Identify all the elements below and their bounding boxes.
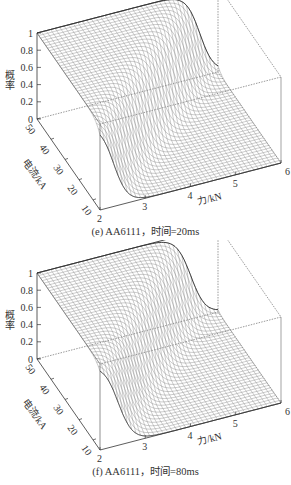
x-tick-label: 3 (142, 201, 147, 212)
z-tick-label: 0.2 (21, 336, 34, 347)
x-tick-label: 3 (142, 441, 147, 452)
panel-e: 00.20.40.60.81概率1020304050电流/kA23456力/kN… (0, 0, 291, 240)
x-tick-label: 2 (97, 453, 102, 462)
z-axis-label: 概率 (4, 69, 15, 91)
z-tick-label: 0.6 (21, 302, 34, 313)
x-tick-label: 6 (285, 406, 290, 417)
x-tick-label: 2 (97, 213, 102, 222)
z-tick-label: 1 (28, 28, 33, 39)
surface-plot-e: 00.20.40.60.81概率1020304050电流/kA23456力/kN (0, 0, 291, 222)
x-tick-label: 5 (233, 178, 238, 189)
surface-mesh (37, 0, 281, 198)
y-tick-label: 50 (23, 362, 38, 377)
z-tick-label: 0.6 (21, 62, 34, 73)
z-tick-label: 0.4 (21, 79, 34, 90)
y-tick-label: 20 (65, 183, 80, 198)
y-tick-label: 10 (79, 203, 94, 218)
z-tick-label: 1 (28, 268, 33, 279)
x-axis-label: 力/kN (196, 189, 223, 207)
panel-f: 00.20.40.60.81概率1020304050电流/kA23456力/kN… (0, 240, 291, 485)
z-tick-label: 0.8 (21, 45, 34, 56)
z-axis-label: 概率 (4, 309, 15, 331)
y-tick-label: 50 (23, 122, 38, 137)
y-tick-label: 40 (37, 142, 52, 157)
z-tick-label: 0.2 (21, 96, 34, 107)
y-tick-label: 30 (51, 162, 66, 177)
x-tick-label: 5 (233, 418, 238, 429)
y-tick-label: 10 (79, 443, 94, 458)
z-tick-label: 0.4 (21, 319, 34, 330)
caption-e: (e) AA6111，时间=20ms (0, 223, 291, 238)
x-tick-label: 6 (285, 166, 290, 177)
x-axis-label: 力/kN (196, 429, 223, 447)
surface-plot-f: 00.20.40.60.81概率1020304050电流/kA23456力/kN (0, 240, 291, 462)
x-tick-label: 4 (188, 190, 193, 201)
y-axis-label: 电流/kA (20, 396, 50, 432)
y-tick-label: 40 (37, 382, 52, 397)
y-tick-label: 20 (65, 423, 80, 438)
x-tick-label: 4 (188, 430, 193, 441)
y-axis-label: 电流/kA (20, 156, 50, 192)
z-tick-label: 0.8 (21, 285, 34, 296)
caption-f: (f) AA6111，时间=80ms (0, 463, 291, 478)
y-tick-label: 30 (51, 402, 66, 417)
surface-mesh (37, 240, 281, 436)
